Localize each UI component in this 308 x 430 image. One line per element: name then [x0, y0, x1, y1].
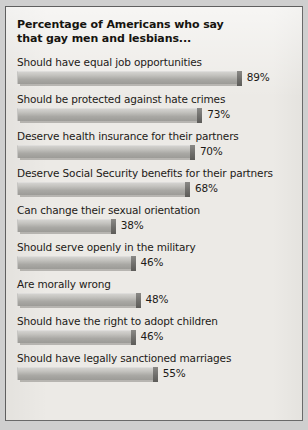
bar-list: Should have equal job opportunities89%Sh… — [17, 56, 294, 382]
bar-row: Are morally wrong48% — [17, 278, 294, 308]
bar-fill — [17, 145, 190, 158]
chart-inner: Percentage of Americans who say that gay… — [6, 7, 302, 395]
bar-label: Can change their sexual orientation — [17, 204, 294, 217]
bar-fill — [17, 256, 131, 269]
bar-fill — [17, 71, 237, 84]
bar-line: 38% — [17, 219, 294, 234]
bar-value-label: 48% — [146, 293, 169, 306]
bar-fill — [17, 330, 131, 343]
bar-fill — [17, 108, 197, 121]
bar-value-label: 89% — [247, 71, 270, 84]
bar-fill — [17, 367, 153, 380]
bar-value-label: 38% — [121, 219, 144, 232]
bar-line: 68% — [17, 182, 294, 197]
bar-fill — [17, 293, 136, 306]
bar-row: Deserve Social Security benefits for the… — [17, 167, 294, 197]
chart-panel: Percentage of Americans who say that gay… — [5, 6, 303, 421]
bar-fill — [17, 182, 185, 195]
bar-label: Should have legally sanctioned marriages — [17, 352, 294, 365]
bar-fill — [17, 219, 111, 232]
bar-label: Should be protected against hate crimes — [17, 93, 294, 106]
bar-label: Should serve openly in the military — [17, 241, 294, 254]
bar-value-label: 55% — [163, 367, 186, 380]
bar-label: Deserve health insurance for their partn… — [17, 130, 294, 143]
bar-row: Should have the right to adopt children4… — [17, 315, 294, 345]
bar-row: Should have legally sanctioned marriages… — [17, 352, 294, 382]
bar-row: Should be protected against hate crimes7… — [17, 93, 294, 123]
bar-value-label: 46% — [141, 256, 164, 269]
bar-row: Can change their sexual orientation38% — [17, 204, 294, 234]
chart-title: Percentage of Americans who say that gay… — [17, 18, 294, 45]
chart-page: Percentage of Americans who say that gay… — [0, 0, 308, 430]
bar-label: Deserve Social Security benefits for the… — [17, 167, 294, 180]
bar-label: Should have the right to adopt children — [17, 315, 294, 328]
bar-row: Should have equal job opportunities89% — [17, 56, 294, 86]
bar-value-label: 73% — [207, 108, 230, 121]
bar-label: Should have equal job opportunities — [17, 56, 294, 69]
bar-line: 46% — [17, 330, 294, 345]
bar-row: Should serve openly in the military46% — [17, 241, 294, 271]
bar-value-label: 68% — [195, 182, 218, 195]
bar-line: 46% — [17, 256, 294, 271]
bar-label: Are morally wrong — [17, 278, 294, 291]
bar-line: 70% — [17, 145, 294, 160]
bar-line: 55% — [17, 367, 294, 382]
bar-value-label: 46% — [141, 330, 164, 343]
bar-line: 73% — [17, 108, 294, 123]
bar-row: Deserve health insurance for their partn… — [17, 130, 294, 160]
bar-line: 89% — [17, 71, 294, 86]
bar-line: 48% — [17, 293, 294, 308]
bar-value-label: 70% — [200, 145, 223, 158]
